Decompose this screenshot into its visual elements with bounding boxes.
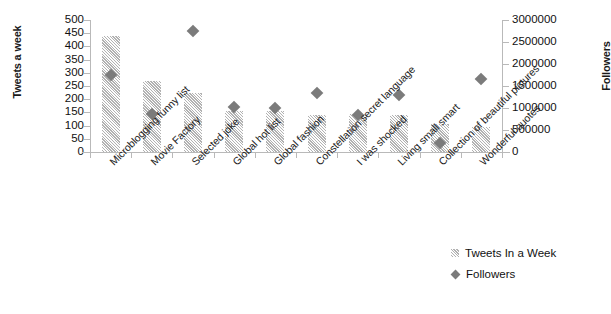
y-right-tick-label: 2500000 [512,36,557,48]
y-left-tick-label: 450 [65,27,84,39]
x-tickmark [502,153,503,158]
x-tickmark [378,153,379,158]
y-right-tickmark [503,152,509,153]
y-axis-right-title: Followers [600,16,611,116]
x-tickmark [420,153,421,158]
y-right-tick-label: 3000000 [512,14,557,26]
legend-item-label: Tweets In a Week [465,247,556,259]
x-tickmark [90,153,91,158]
dual-axis-chart: Tweets a week Followers 0501001502002503… [0,0,611,314]
x-tickmark [131,153,132,158]
y-left-tick-label: 400 [65,40,84,52]
y-right-tickmark [503,64,509,65]
x-tickmark [214,153,215,158]
diamond-marker[interactable] [475,73,488,86]
y-right-tickmark [503,20,509,21]
legend-item[interactable]: Followers [451,268,556,280]
y-left-tick-label: 50 [71,133,84,145]
legend-bar-swatch-icon [451,249,459,257]
legend-item-label: Followers [466,268,515,280]
y-left-tick-label: 100 [65,120,84,132]
chart-legend: Tweets In a WeekFollowers [451,247,556,289]
y-left-tick-label: 150 [65,106,84,118]
y-right-tickmark [503,108,509,109]
legend-item[interactable]: Tweets In a Week [451,247,556,259]
diamond-marker[interactable] [310,86,323,99]
y-right-tickmark [503,42,509,43]
y-left-tick-label: 350 [65,54,84,66]
y-axis-left-title: Tweets a week [11,12,23,112]
diamond-marker[interactable] [187,25,200,38]
legend-diamond-swatch-icon [451,269,461,279]
y-left-tick-label: 250 [65,80,84,92]
bar[interactable] [102,36,120,152]
x-tickmark [337,153,338,158]
x-tickmark [172,153,173,158]
y-right-tick-label: 0 [512,146,518,158]
y-axis-left-tick-labels: 050100150200250300350400450500 [52,0,84,314]
y-left-tick-label: 300 [65,67,84,79]
x-tickmark [461,153,462,158]
y-left-tick-label: 200 [65,93,84,105]
x-tickmark [296,153,297,158]
x-tickmark [255,153,256,158]
y-left-tick-label: 500 [65,14,84,26]
